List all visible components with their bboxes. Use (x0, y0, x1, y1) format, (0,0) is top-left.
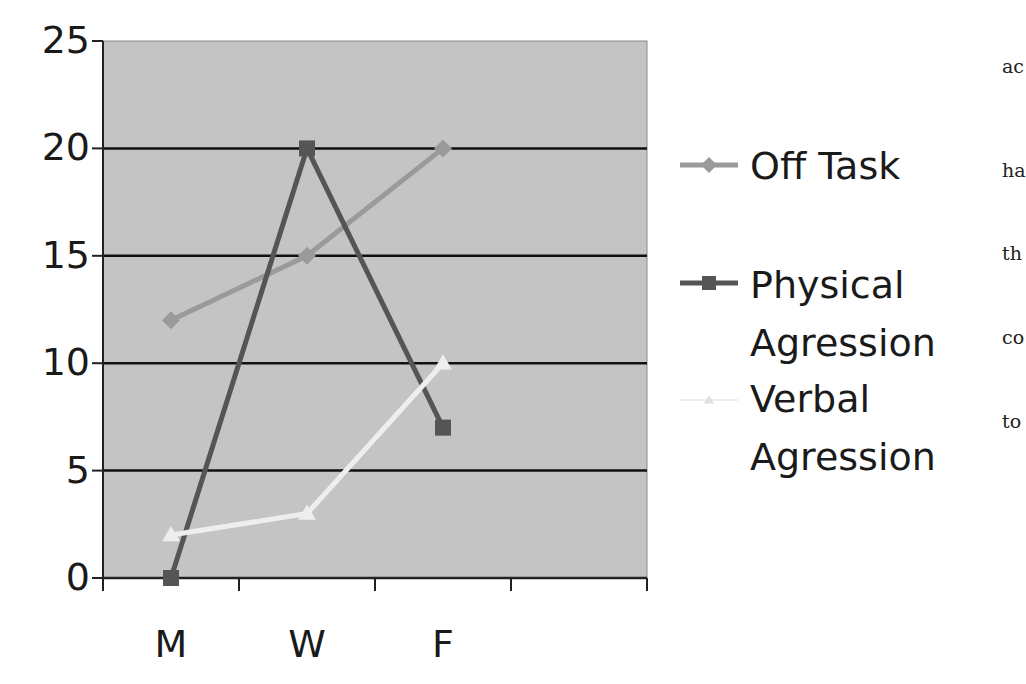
legend-label-line2: Agression (750, 428, 936, 486)
square-marker-icon (299, 140, 315, 156)
legend-item-verbal-agression: Verbal Agression (750, 370, 936, 486)
y-tick-label: 0 (0, 558, 90, 596)
square-marker-icon (435, 420, 451, 436)
y-tick-label: 25 (0, 21, 90, 59)
y-tick-label: 20 (0, 128, 90, 166)
side-text-line: ha (1002, 159, 1026, 181)
legend-markers (680, 157, 738, 404)
y-tick-label: 10 (0, 343, 90, 381)
legend-marker-verbal-agression (680, 395, 738, 404)
y-tick-label: 15 (0, 236, 90, 274)
side-text-line: th (1002, 242, 1022, 264)
side-text-line: ac (1002, 55, 1024, 77)
legend-label-line1: Physical (750, 256, 936, 314)
y-tick-label: 5 (0, 451, 90, 489)
legend-item-physical-agression: Physical Agression (750, 256, 936, 372)
plot-area (103, 41, 647, 578)
diamond-marker-icon (701, 157, 717, 173)
legend-label-line1: Verbal (750, 370, 936, 428)
legend-marker-off-task (680, 157, 738, 173)
square-marker-icon (702, 276, 716, 290)
legend-label-off-task: Off Task (750, 144, 900, 188)
x-tick-label: M (141, 625, 201, 663)
x-tick-label: F (413, 625, 473, 663)
side-text-line: to (1002, 410, 1021, 432)
square-marker-icon (163, 570, 179, 586)
legend-label-line2: Agression (750, 314, 936, 372)
legend-marker-physical-agression (680, 276, 738, 290)
x-tick-label: W (277, 625, 337, 663)
side-text-line: co (1002, 326, 1024, 348)
legend-item-off-task: Off Task (750, 137, 900, 195)
